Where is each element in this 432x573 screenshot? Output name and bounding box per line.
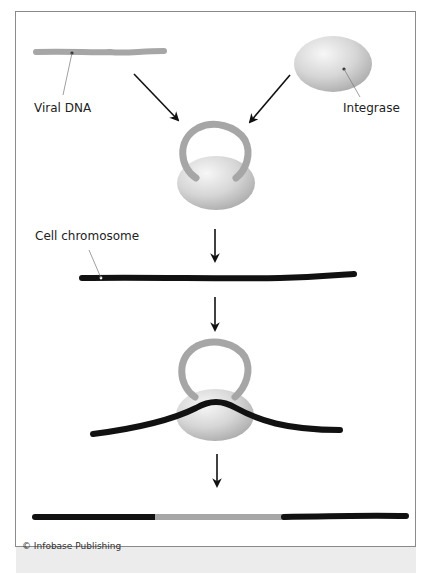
integrated-chromosome: [35, 516, 406, 517]
complex-bending-chromosome: [93, 342, 340, 441]
viral-dna-strand: [36, 51, 164, 53]
integrase-blob: [294, 36, 372, 92]
cell-chromosome-strand: [82, 274, 354, 278]
copyright-credit: © Infobase Publishing: [22, 541, 121, 551]
viral-dna-leader-line: [63, 51, 74, 95]
arrow-viral-to-complex: [134, 74, 178, 120]
integrase-label: Integrase: [343, 101, 400, 115]
integration-diagram: [0, 0, 432, 573]
viral-dna-label: Viral DNA: [34, 101, 91, 115]
integrase-viral-complex: [177, 124, 255, 210]
arrow-integrase-to-complex: [250, 75, 290, 122]
cell-chromosome-label: Cell chromosome: [35, 229, 139, 243]
